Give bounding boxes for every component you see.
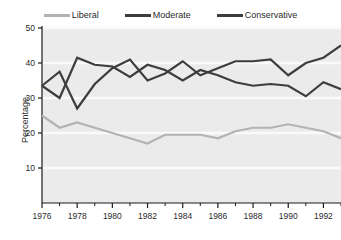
x-tick-label: 1990 xyxy=(279,211,298,221)
x-tick-label: 1976 xyxy=(33,211,52,221)
y-tick-label: 10 xyxy=(26,163,36,173)
chart-container: Liberal Moderate Conservative Percentage… xyxy=(0,0,341,240)
chart-plot: 5040302010 19761978198019821984198619881… xyxy=(0,0,341,240)
y-tick-label: 30 xyxy=(26,93,36,103)
x-tick-label: 1988 xyxy=(244,211,263,221)
x-tick-label: 1986 xyxy=(208,211,227,221)
x-tick-label: 1982 xyxy=(138,211,157,221)
x-tick-label: 1992 xyxy=(314,211,333,221)
x-tick-label: 1978 xyxy=(68,211,87,221)
y-tick-label: 40 xyxy=(26,58,36,68)
x-tick-label: 1980 xyxy=(103,211,122,221)
y-tick-label: 50 xyxy=(26,23,36,33)
y-axis-ticks: 5040302010 xyxy=(26,23,42,173)
x-axis-ticks: 197619781980198219841986198819901992 xyxy=(33,203,341,221)
y-tick-label: 20 xyxy=(26,128,36,138)
plot-background xyxy=(42,28,341,203)
x-tick-label: 1984 xyxy=(173,211,192,221)
